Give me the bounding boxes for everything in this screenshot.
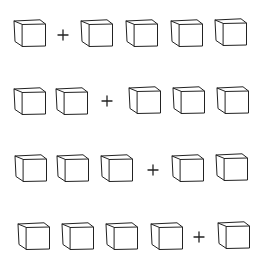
plus-icon: [101, 95, 113, 107]
cube-icon: [215, 153, 248, 181]
cube-icon: [128, 86, 161, 114]
cube-icon: [61, 222, 94, 250]
cube-icon: [125, 19, 158, 47]
plus-icon: [57, 29, 69, 41]
cube-icon: [172, 86, 205, 114]
cube-icon: [105, 222, 138, 250]
cube-sequence-figure: [0, 0, 262, 274]
cube-icon: [14, 154, 47, 182]
cube-icon: [17, 222, 50, 250]
cube-icon: [170, 19, 203, 47]
plus-icon: [147, 164, 159, 176]
cube-icon: [216, 86, 249, 114]
cube-icon: [13, 19, 46, 47]
cube-icon: [100, 154, 133, 182]
cube-icon: [13, 87, 46, 115]
cube-icon: [80, 19, 113, 47]
cube-icon: [171, 154, 204, 182]
plus-icon: [193, 231, 205, 243]
cube-icon: [56, 154, 89, 182]
cube-icon: [214, 18, 247, 46]
cube-icon: [217, 221, 250, 249]
cube-icon: [150, 222, 183, 250]
cube-icon: [55, 87, 88, 115]
